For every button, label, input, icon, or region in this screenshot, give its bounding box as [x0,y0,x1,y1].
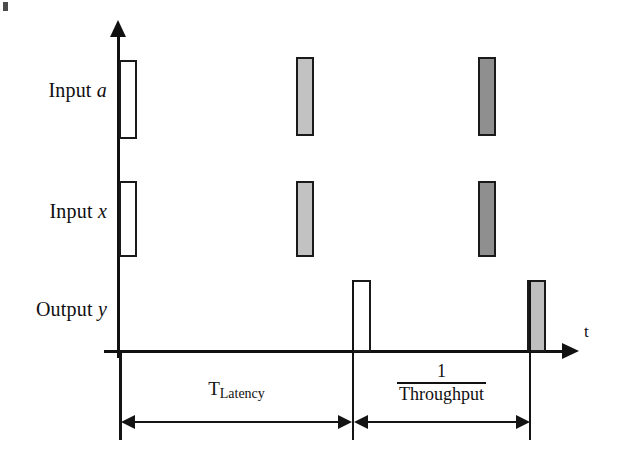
row-label-input-a-prefix: Input [48,79,91,101]
timing-diagram-figure: t Input a Input x Output y TLatency 1 [0,0,624,469]
fraction-denominator: Throughput [397,385,486,404]
time-axis-line [104,350,563,353]
dimension-caption-latency: TLatency [120,378,353,400]
dimension-arrow-latency [121,415,352,429]
pulse-input-x-2 [296,181,314,257]
dimension-caption-latency-sub: Latency [220,386,265,401]
row-label-output-y-prefix: Output [36,298,93,320]
dimension-caption-throughput: 1 Throughput [353,362,530,405]
row-label-input-a: Input a [0,79,107,102]
arrowhead-right-icon [338,415,352,429]
row-label-output-y: Output y [0,298,107,321]
fraction-numerator: 1 [397,362,486,381]
pulse-input-a-2 [296,57,314,136]
time-axis-arrow-icon [562,343,579,359]
dimension-caption-latency-main: T [208,378,220,399]
dimension-arrow-shaft [131,421,342,423]
dimension-arrow-throughput [354,415,530,429]
pulse-output-y-1 [352,280,371,352]
dimension-arrow-shaft [364,421,520,423]
row-label-output-y-var: y [98,298,107,320]
row-label-input-x: Input x [0,200,107,223]
vertical-axis-arrow-icon [110,20,126,37]
arrowhead-right-icon [516,415,530,429]
pulse-input-a-1 [119,60,137,139]
row-label-input-x-prefix: Input [50,200,93,222]
pulse-input-x-1 [119,181,137,257]
pulse-input-a-3 [478,57,496,136]
row-label-input-x-var: x [98,200,107,222]
row-label-input-a-var: a [97,79,107,101]
pulse-input-x-3 [478,181,496,257]
fraction-one-over-throughput: 1 Throughput [397,362,486,404]
scan-artifact [3,2,8,11]
time-axis-label: t [584,322,589,342]
